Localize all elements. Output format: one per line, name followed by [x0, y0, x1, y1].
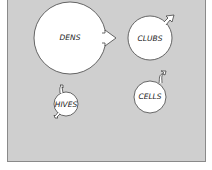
node-clubs: CLUBS	[128, 15, 174, 60]
diagram-canvas: DENS CLUBS CELLS HIVES	[0, 0, 212, 170]
node-label-cells: CELLS	[138, 92, 161, 101]
node-hives: HIVES	[54, 85, 78, 118]
hook-arrow-icon	[60, 85, 63, 93]
node-dens: DENS	[34, 2, 116, 74]
arrow-up-right-icon	[164, 15, 174, 25]
hook-arrow-icon	[159, 71, 166, 83]
node-label-hives: HIVES	[55, 100, 78, 109]
node-label-clubs: CLUBS	[138, 34, 163, 43]
node-label-dens: DENS	[60, 33, 81, 42]
node-cells: CELLS	[134, 71, 166, 113]
